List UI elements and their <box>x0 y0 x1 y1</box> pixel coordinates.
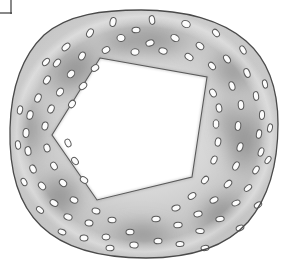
vascular-bundle <box>102 234 110 240</box>
vascular-bundle <box>196 228 205 233</box>
vascular-bundle <box>108 217 116 223</box>
vascular-bundle <box>253 91 259 100</box>
stem-body <box>6 10 278 258</box>
vascular-bundle <box>117 34 126 41</box>
vascular-bundle <box>130 242 139 248</box>
vascular-bundle <box>154 238 162 244</box>
vascular-bundle <box>15 140 21 149</box>
vascular-bundle <box>85 219 94 226</box>
vascular-bundle <box>213 120 219 128</box>
vascular-bundle <box>152 216 161 222</box>
vascular-bundle <box>174 222 183 228</box>
vascular-bundle <box>235 121 241 130</box>
stem-cross-section-drawing <box>0 0 282 263</box>
vascular-bundle <box>238 100 244 109</box>
vascular-bundle <box>259 111 265 120</box>
vascular-bundle <box>80 235 89 242</box>
vascular-bundle <box>176 241 184 247</box>
vascular-bundle <box>23 128 30 137</box>
vascular-bundle <box>106 245 114 251</box>
vascular-bundle <box>126 229 134 235</box>
vascular-bundle <box>215 216 224 222</box>
illustration-figure: Stem cross-section <box>0 0 282 263</box>
vascular-bundle <box>131 48 140 55</box>
vascular-bundle <box>132 27 140 33</box>
vascular-bundle <box>24 146 31 156</box>
crop-corner-bracket <box>0 0 12 14</box>
